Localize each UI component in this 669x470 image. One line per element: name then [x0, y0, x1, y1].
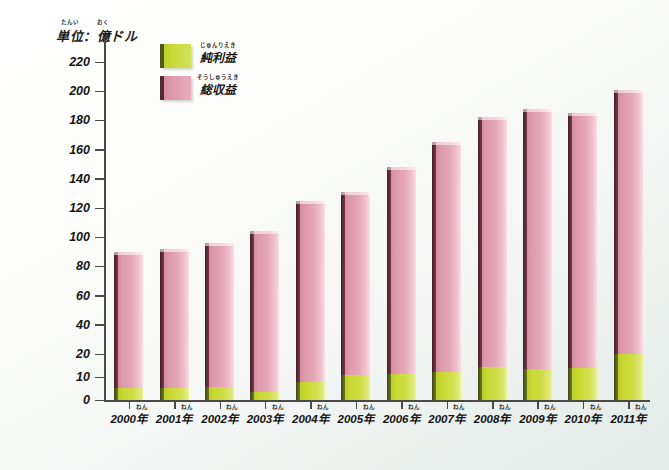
y-axis-tick	[95, 178, 104, 180]
bar-edge-shadow	[341, 192, 345, 375]
bar-edge-shadow	[568, 113, 572, 368]
y-axis-tick-label: 60	[76, 289, 90, 303]
x-axis-year-suffix: ねん年	[227, 410, 238, 426]
y-axis-labels: 01020406080100120140160180200220	[0, 0, 104, 470]
bar-segment-total-revenue[interactable]	[250, 231, 279, 392]
x-axis-year-suffix-text: 年	[272, 413, 283, 425]
x-axis-year-suffix-ruby: ねん	[408, 403, 420, 411]
bar-segment-net-profit[interactable]	[205, 387, 234, 400]
y-axis-tick-label: 180	[69, 113, 90, 127]
bar-top-highlight	[478, 117, 507, 120]
bar-top-highlight	[341, 192, 370, 195]
x-axis-year-suffix-text: 年	[136, 413, 147, 425]
bar-segment-total-revenue[interactable]	[568, 113, 597, 368]
bar-segment-net-profit[interactable]	[296, 382, 325, 400]
x-axis-year-suffix-ruby: ねん	[453, 403, 465, 411]
bar-segment-net-profit[interactable]	[160, 388, 189, 400]
x-axis-tick-label: 2006ねん年	[383, 410, 420, 426]
y-axis-tick-label: 200	[69, 84, 90, 98]
bar-edge-shadow	[523, 369, 527, 400]
x-axis-year-suffix: ねん年	[363, 410, 374, 426]
bar-segment-total-revenue[interactable]	[341, 192, 370, 375]
bar-top-highlight	[160, 249, 189, 252]
bar-segment-net-profit[interactable]	[114, 388, 143, 400]
x-axis-year-suffix-text: 年	[227, 413, 238, 425]
bar-segment-total-revenue[interactable]	[205, 243, 234, 387]
bar-group[interactable]	[114, 252, 143, 400]
bar-group[interactable]	[341, 192, 370, 400]
y-axis-tick	[95, 208, 104, 210]
bar-group[interactable]	[205, 243, 234, 400]
x-axis-tick	[537, 402, 539, 409]
x-axis-year-suffix: ねん年	[454, 410, 465, 426]
y-axis-tick	[95, 324, 104, 326]
bar-edge-shadow	[114, 388, 118, 400]
bar-group[interactable]	[387, 167, 416, 400]
x-axis-year-suffix-ruby: ねん	[635, 403, 647, 411]
bar-group[interactable]	[432, 142, 461, 400]
bar-segment-total-revenue[interactable]	[160, 249, 189, 389]
x-axis-year: 2006	[383, 413, 409, 425]
bar-group[interactable]	[523, 109, 552, 400]
bar-group[interactable]	[568, 113, 597, 400]
x-axis-year-suffix-text: 年	[635, 413, 646, 425]
x-axis-tick-label: 2001ねん年	[156, 410, 193, 426]
bar-top-highlight	[432, 142, 461, 145]
x-axis-tick	[356, 402, 358, 409]
bar-group[interactable]	[614, 90, 643, 400]
bar-segment-total-revenue[interactable]	[296, 201, 325, 382]
x-axis-tick-label: 2005ねん年	[337, 410, 374, 426]
bar-edge-shadow	[614, 354, 618, 400]
bar-top-highlight	[387, 167, 416, 170]
bar-segment-net-profit[interactable]	[614, 354, 643, 400]
x-axis-year-suffix-text: 年	[454, 413, 465, 425]
x-axis-tick-label: 2003ねん年	[247, 410, 284, 426]
y-axis-tick	[95, 266, 104, 268]
y-axis-tick	[95, 120, 104, 122]
bar-segment-net-profit[interactable]	[568, 368, 597, 400]
bar-edge-shadow	[478, 367, 482, 400]
bar-segment-net-profit[interactable]	[387, 374, 416, 400]
y-axis-tick-label: 140	[69, 172, 90, 186]
x-axis-year-suffix-text: 年	[499, 413, 510, 425]
bar-segment-net-profit[interactable]	[523, 369, 552, 400]
x-axis-tick-label: 2010ねん年	[565, 410, 602, 426]
x-axis-tick	[492, 402, 494, 409]
x-axis-tick-label: 2000ねん年	[110, 410, 147, 426]
bar-segment-net-profit[interactable]	[250, 392, 279, 400]
y-axis-tick	[95, 237, 104, 239]
bar-group[interactable]	[478, 117, 507, 400]
bar-group[interactable]	[160, 249, 189, 400]
bar-group[interactable]	[296, 201, 325, 400]
x-axis-year-suffix: ねん年	[409, 410, 420, 426]
bar-top-highlight	[614, 90, 643, 93]
bar-segment-total-revenue[interactable]	[114, 252, 143, 389]
x-axis-year-suffix: ねん年	[499, 410, 510, 426]
x-axis-year-suffix-text: 年	[409, 413, 420, 425]
bar-segment-total-revenue[interactable]	[478, 117, 507, 366]
y-axis-tick	[95, 400, 104, 402]
bar-segment-total-revenue[interactable]	[432, 142, 461, 372]
bar-segment-net-profit[interactable]	[432, 372, 461, 400]
x-axis-year-suffix: ねん年	[136, 410, 147, 426]
x-axis-year-suffix-ruby: ねん	[272, 403, 284, 411]
x-axis-tick	[265, 402, 267, 409]
bar-segment-net-profit[interactable]	[478, 367, 507, 400]
x-axis-year-suffix-ruby: ねん	[181, 403, 193, 411]
x-axis-tick	[583, 402, 585, 409]
bar-segment-net-profit[interactable]	[341, 375, 370, 400]
bar-segment-total-revenue[interactable]	[614, 90, 643, 354]
x-axis-year-suffix-text: 年	[318, 413, 329, 425]
y-axis-tick	[95, 295, 104, 297]
y-axis-tick-label: 220	[69, 55, 90, 69]
bar-segment-total-revenue[interactable]	[387, 167, 416, 373]
bar-group[interactable]	[250, 231, 279, 400]
y-axis-tick	[95, 354, 104, 356]
bar-edge-shadow	[160, 249, 164, 389]
bar-edge-shadow	[387, 374, 391, 400]
bar-edge-shadow	[250, 392, 254, 400]
bar-segment-total-revenue[interactable]	[523, 109, 552, 369]
bar-edge-shadow	[205, 243, 209, 387]
x-axis-tick-label: 2009ねん年	[519, 410, 556, 426]
chart-container: たんい単位：おく億ドル じゅんりえき 純利益 そうしゅうえき 総収益 01020…	[0, 0, 669, 470]
